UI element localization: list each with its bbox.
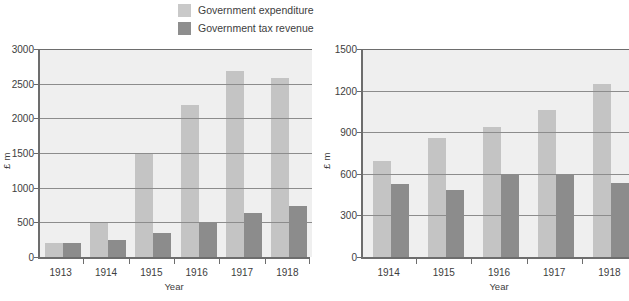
bar [244, 213, 262, 257]
gridline [40, 188, 312, 189]
y-tick-label: 3000 [12, 44, 34, 55]
bar [181, 105, 199, 257]
y-tick-label: 1200 [335, 85, 357, 96]
y-tick-label: 1500 [335, 44, 357, 55]
x-tick-label: 1916 [186, 267, 208, 278]
legend-swatch-icon-tax-revenue [178, 22, 191, 35]
y-tick-label: 1000 [12, 182, 34, 193]
gridline [40, 49, 312, 50]
x-tick-mark [309, 259, 310, 264]
x-tick-label: 1918 [598, 267, 620, 278]
bar [373, 161, 391, 257]
legend-swatch-icon-expenditure [178, 4, 191, 17]
bar [593, 84, 611, 257]
x-tick-label: 1917 [543, 267, 565, 278]
gridline [40, 222, 312, 223]
gridline [363, 49, 629, 50]
x-tick-label: 1913 [50, 267, 72, 278]
x-tick-label: 1917 [231, 267, 253, 278]
bar [108, 240, 126, 257]
y-axis-ticks-right: 030060090012001500 [327, 49, 357, 257]
bar [90, 223, 108, 257]
bar [45, 243, 63, 257]
bar [135, 153, 153, 257]
bar [289, 206, 307, 257]
bar [391, 184, 409, 257]
legend-item-tax-revenue: Government tax revenue [178, 22, 314, 35]
bar [63, 243, 81, 257]
x-axis-label-right: Year [489, 281, 508, 292]
x-tick-mark [83, 259, 84, 264]
bar [611, 183, 629, 257]
trade-value-chart: Imports by value Exports by value £ m 03… [320, 0, 629, 301]
gridline [363, 91, 629, 92]
chart-page: Government expenditure Government tax re… [0, 0, 629, 301]
plot-canvas-left [38, 49, 312, 257]
bar [153, 233, 171, 257]
x-tick-mark [527, 259, 528, 264]
y-tick-label: 500 [17, 217, 34, 228]
legend-item-expenditure: Government expenditure [178, 4, 314, 17]
y-tick-label: 2500 [12, 78, 34, 89]
government-finance-chart: Government expenditure Government tax re… [0, 0, 320, 301]
x-tick-mark [471, 259, 472, 264]
bar-group-right [363, 49, 629, 257]
bar [199, 223, 217, 257]
gridline [363, 132, 629, 133]
x-axis-label-left: Year [164, 281, 183, 292]
x-tick-label: 1914 [377, 267, 399, 278]
x-tick-mark [265, 259, 266, 264]
gridline [40, 84, 312, 85]
bar [483, 127, 501, 257]
y-tick-label: 300 [340, 210, 357, 221]
x-tick-label: 1915 [433, 267, 455, 278]
legend-label-expenditure: Government expenditure [198, 4, 314, 17]
x-axis-line-right [361, 257, 629, 259]
legend-label-tax-revenue: Government tax revenue [198, 22, 314, 35]
x-tick-label: 1918 [276, 267, 298, 278]
x-tick-mark [416, 259, 417, 264]
legend-government-finance: Government expenditure Government tax re… [178, 4, 314, 35]
y-tick-label: 900 [340, 127, 357, 138]
x-tick-mark [219, 259, 220, 264]
x-tick-mark [174, 259, 175, 264]
bar [428, 138, 446, 257]
y-axis-ticks-left: 050010001500200025003000 [4, 49, 34, 257]
y-tick-label: 600 [340, 168, 357, 179]
y-tick-label: 2000 [12, 113, 34, 124]
bar [446, 190, 464, 257]
plot-canvas-right [361, 49, 629, 257]
bar [271, 78, 289, 257]
gridline [363, 215, 629, 216]
bar [226, 71, 244, 258]
x-tick-label: 1915 [140, 267, 162, 278]
x-tick-mark [129, 259, 130, 264]
x-tick-label: 1916 [488, 267, 510, 278]
x-tick-mark [582, 259, 583, 264]
gridline [40, 153, 312, 154]
gridline [40, 118, 312, 119]
gridline [363, 174, 629, 175]
y-tick-label: 1500 [12, 148, 34, 159]
x-tick-label: 1914 [95, 267, 117, 278]
